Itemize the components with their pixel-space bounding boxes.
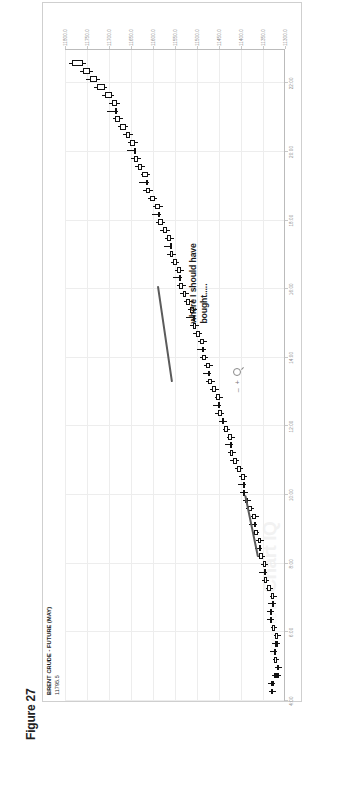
candlestick [139, 180, 149, 186]
candle-body [267, 585, 271, 591]
time-axis-tick [285, 82, 288, 83]
zoom-controls[interactable]: – + [233, 368, 241, 392]
candlestick [239, 474, 247, 480]
candlestick [259, 569, 266, 575]
candle-body [83, 68, 89, 74]
price-axis-tick [241, 46, 242, 49]
zoom-in-button[interactable]: + [234, 380, 241, 384]
symbol-name: BRENT CRUDE - FUTURE (MAY) [46, 607, 54, 695]
candle-body [170, 243, 172, 249]
time-axis-label: 22:00 [289, 77, 294, 89]
price-axis-label: 11650.0 [129, 29, 134, 46]
rotated-chart-wrapper: BRENT CRUDE - FUTURE (MAY) 11795.5 POWER… [42, 2, 302, 702]
candlestick [164, 243, 173, 249]
grid-line-vertical [65, 563, 285, 564]
candlestick [200, 355, 209, 361]
price-axis-label: 11400.0 [239, 29, 244, 46]
price-axis-label: 11550.0 [173, 29, 178, 46]
grid-line-vertical [65, 425, 285, 426]
candle-body [179, 283, 183, 289]
candle-body [271, 689, 273, 695]
candlestick [272, 641, 280, 647]
candlestick [80, 68, 93, 74]
candle-body [218, 410, 222, 416]
candlestick [223, 426, 231, 432]
candle-body [259, 553, 262, 559]
candle-body [275, 633, 278, 639]
candlestick [213, 402, 221, 408]
candle-body [138, 164, 142, 170]
candlestick [102, 92, 114, 98]
candlestick [256, 538, 264, 544]
candle-body [274, 649, 276, 655]
price-axis-label: 11500.0 [195, 29, 200, 46]
candle-body [163, 227, 167, 233]
candlestick [204, 363, 213, 369]
candlestick [230, 458, 239, 464]
time-axis-tick [285, 700, 288, 701]
time-axis[interactable]: 4:006:008:0010:0012:0014:0016:0018:0020:… [284, 49, 301, 701]
chart-annotation[interactable]: where I should have bought..... [188, 243, 209, 323]
candlestick [128, 140, 138, 146]
candlestick [270, 649, 277, 655]
candle-body [230, 442, 232, 448]
time-axis-tick [285, 631, 288, 632]
price-axis[interactable]: 11800.011750.011700.011650.011600.011550… [65, 3, 285, 50]
candle-body [274, 657, 277, 663]
candle-body [120, 124, 125, 130]
plot-area[interactable] [65, 49, 285, 701]
candle-body [72, 60, 83, 66]
zoom-out-button[interactable]: – [234, 388, 241, 392]
candle-body [167, 235, 171, 241]
candle-body [115, 116, 120, 122]
candle-body [270, 617, 272, 623]
candle-body [241, 474, 245, 480]
price-axis-label: 11600.0 [151, 29, 156, 46]
price-axis-tick [219, 46, 220, 49]
candlestick [275, 665, 282, 671]
candlestick [219, 418, 227, 424]
price-axis-label: 11800.0 [63, 29, 68, 46]
last-price: 11795.5 [54, 607, 61, 695]
candlestick [215, 410, 224, 416]
candlestick [227, 434, 235, 440]
candlestick [197, 347, 206, 353]
candlestick [94, 84, 107, 90]
price-axis-tick [263, 46, 264, 49]
time-axis-label: 4:00 [289, 696, 294, 705]
trendline-lower-uptrend[interactable] [245, 495, 260, 557]
candle-body [146, 180, 148, 186]
candle-body [146, 188, 150, 194]
candle-body [173, 259, 177, 265]
chart-title-block: BRENT CRUDE - FUTURE (MAY) 11795.5 [46, 607, 61, 695]
candle-body [126, 132, 130, 138]
price-axis-tick [87, 46, 88, 49]
grid-line-vertical [65, 494, 285, 495]
candle-body [142, 172, 147, 178]
candle-body [208, 371, 210, 377]
price-axis-label: 11300.0 [283, 29, 288, 46]
chart-panel[interactable]: BRENT CRUDE - FUTURE (MAY) 11795.5 POWER… [42, 2, 302, 702]
price-axis-tick [197, 46, 198, 49]
grid-line-vertical [65, 288, 285, 289]
candle-body [230, 450, 233, 456]
candlestick [262, 577, 269, 583]
candle-body [259, 545, 261, 551]
candle-body [275, 641, 278, 647]
candlestick [143, 188, 153, 194]
time-axis-label: 16:00 [289, 283, 294, 295]
price-axis-tick [65, 46, 66, 49]
grid-line-horizontal [153, 49, 154, 701]
magnifier-icon[interactable] [233, 368, 241, 376]
candlestick [113, 116, 124, 122]
candle-body [258, 538, 261, 544]
candle-body [222, 418, 225, 424]
candle-body [272, 601, 275, 607]
candle-body [264, 577, 268, 583]
candlestick [127, 148, 137, 154]
candle-body [274, 673, 278, 679]
trendline-upper-downtrend[interactable] [157, 286, 173, 382]
grid-line-vertical [65, 82, 285, 83]
candlestick [274, 633, 281, 639]
candle-body [158, 212, 160, 218]
